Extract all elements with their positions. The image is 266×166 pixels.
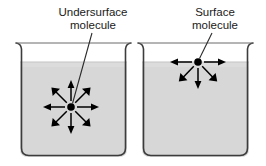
undersurface-label-line2: molecule bbox=[70, 19, 116, 31]
liquid-body-left bbox=[19, 62, 129, 158]
undersurface-label-line1: Undersurface bbox=[58, 6, 127, 18]
leader-line-surface bbox=[200, 33, 213, 59]
liquid-fill-left bbox=[19, 62, 129, 158]
diagram-canvas: Undersurface molecule bbox=[0, 0, 266, 166]
surface-molecule-dot bbox=[194, 58, 202, 66]
liquid-surface-band-left bbox=[19, 62, 129, 67]
undersurface-molecule-dot bbox=[67, 103, 75, 111]
surface-label-line1: Surface bbox=[195, 6, 235, 18]
figure-container: Undersurface molecule bbox=[0, 0, 266, 166]
liquid-body-right bbox=[141, 62, 251, 158]
undersurface-panel: Undersurface molecule bbox=[16, 6, 131, 158]
surface-label-line2: molecule bbox=[192, 19, 238, 31]
liquid-fill-right bbox=[141, 62, 251, 158]
surface-panel: Surface molecule bbox=[138, 6, 253, 158]
